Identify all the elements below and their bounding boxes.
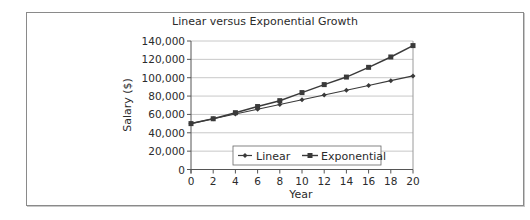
diamond-marker-icon bbox=[300, 97, 305, 102]
square-marker-icon bbox=[366, 65, 371, 70]
y-tick-label: 120,000 bbox=[142, 53, 185, 65]
x-tick-label: 18 bbox=[384, 175, 397, 187]
square-marker-icon bbox=[277, 98, 282, 103]
y-axis-ticks: 020,00040,00060,00080,000100,000120,0001… bbox=[142, 35, 191, 176]
square-marker-icon bbox=[233, 110, 238, 115]
square-marker-icon bbox=[344, 75, 349, 80]
square-marker-icon bbox=[411, 43, 416, 48]
y-tick-label: 100,000 bbox=[142, 72, 185, 84]
diamond-marker-icon bbox=[366, 83, 371, 88]
data-series bbox=[189, 43, 416, 126]
x-tick-label: 20 bbox=[406, 175, 419, 187]
x-tick-label: 16 bbox=[362, 175, 376, 187]
y-tick-label: 0 bbox=[178, 164, 185, 176]
y-tick-label: 20,000 bbox=[148, 145, 185, 157]
square-marker-icon bbox=[322, 82, 327, 87]
y-tick-label: 40,000 bbox=[148, 127, 185, 139]
square-marker-icon bbox=[300, 90, 305, 95]
x-tick-label: 14 bbox=[340, 175, 354, 187]
y-tick-label: 80,000 bbox=[148, 90, 185, 102]
square-marker-icon bbox=[255, 104, 260, 109]
series-linear bbox=[189, 73, 416, 126]
square-marker-icon bbox=[308, 153, 313, 158]
x-tick-label: 6 bbox=[254, 175, 261, 187]
square-marker-icon bbox=[189, 121, 194, 126]
x-axis-ticks: 02468101214161820 bbox=[188, 170, 420, 187]
svg-text:Exponential: Exponential bbox=[321, 150, 386, 163]
y-tick-label: 60,000 bbox=[148, 108, 185, 120]
y-axis-label: Salary ($) bbox=[121, 78, 134, 132]
x-tick-label: 8 bbox=[276, 175, 283, 187]
x-tick-label: 0 bbox=[188, 175, 195, 187]
square-marker-icon bbox=[388, 54, 393, 59]
legend: Linear Exponential bbox=[233, 146, 386, 165]
line-chart: 020,00040,00060,00080,000100,000120,0001… bbox=[0, 0, 530, 220]
series-exponential bbox=[189, 43, 416, 126]
svg-text:Linear: Linear bbox=[256, 150, 291, 163]
x-tick-label: 12 bbox=[318, 175, 331, 187]
diamond-marker-icon bbox=[388, 78, 393, 83]
x-axis-label: Year bbox=[288, 188, 313, 201]
x-tick-label: 10 bbox=[295, 175, 308, 187]
square-marker-icon bbox=[211, 116, 216, 121]
diamond-marker-icon bbox=[322, 92, 327, 97]
x-tick-label: 4 bbox=[232, 175, 239, 187]
x-tick-label: 2 bbox=[210, 175, 217, 187]
diamond-marker-icon bbox=[344, 88, 349, 93]
y-tick-label: 140,000 bbox=[142, 35, 185, 47]
